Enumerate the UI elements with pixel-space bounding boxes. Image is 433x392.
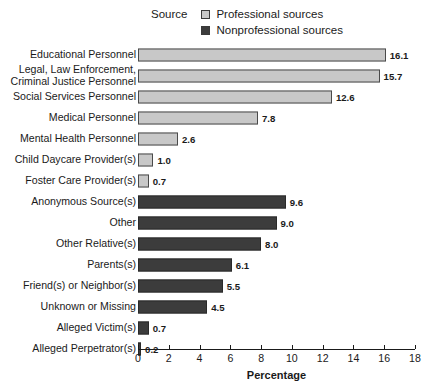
bar-row: Child Daycare Provider(s)1.0 [0,149,433,170]
bar-professional [138,90,332,103]
x-axis-tick-label: 8 [258,352,264,364]
bar-professional [138,153,153,166]
bar-wrapper: 9.6 [138,195,303,208]
bar-category-label: Medical Personnel [4,112,136,124]
x-axis-tick-label: 14 [348,352,360,364]
bar-category-label: Friend(s) or Neighbor(s) [4,280,136,292]
legend-label-nonprofessional: Nonprofessional sources [216,23,343,37]
x-axis-tick [384,345,385,349]
x-axis-tick-label: 12 [317,352,329,364]
bar-nonprofessional [138,237,261,250]
legend-entry-professional: Professional sources [201,7,343,21]
bar-category-label: Alleged Victim(s) [4,322,136,334]
bar-value-label: 1.0 [157,154,170,165]
bar-nonprofessional [138,258,232,271]
bar-nonprofessional [138,300,207,313]
bar-wrapper: 4.5 [138,300,225,313]
x-axis-tick [353,345,354,349]
plot-area: Educational Personnel16.1Legal, Law Enfo… [0,44,433,359]
x-axis-tick-label: 6 [227,352,233,364]
bar-value-label: 16.1 [390,49,409,60]
bar-category-label: Legal, Law Enforcement, Criminal Justice… [4,64,136,86]
bar-value-label: 6.1 [236,259,249,270]
bar-wrapper: 9.0 [138,216,294,229]
bar-row: Other9.0 [0,212,433,233]
bar-value-label: 7.8 [262,112,275,123]
legend-entry-nonprofessional: Nonprofessional sources [201,23,343,37]
bar-category-label: Educational Personnel [4,49,136,61]
bar-row: Educational Personnel16.1 [0,44,433,65]
bar-category-label: Alleged Perpetrator(s) [4,343,136,355]
bar-value-label: 9.0 [281,217,294,228]
bar-wrapper: 8.0 [138,237,278,250]
bar-category-label: Unknown or Missing [4,301,136,313]
bar-nonprofessional [138,195,286,208]
bar-category-label: Mental Health Personnel [4,133,136,145]
x-axis-line [138,349,415,350]
bar-wrapper: 0.7 [138,174,166,187]
bar-row: Foster Care Provider(s)0.7 [0,170,433,191]
bar-row: Unknown or Missing4.5 [0,296,433,317]
bar-value-label: 4.5 [211,301,224,312]
bar-value-label: 0.7 [153,322,166,333]
bar-wrapper: 1.0 [138,153,171,166]
bar-wrapper: 16.1 [138,48,408,61]
x-axis-tick [261,345,262,349]
x-axis-tick-label: 16 [378,352,390,364]
bar-row: Friend(s) or Neighbor(s)5.5 [0,275,433,296]
bar-professional [138,48,386,61]
bar-value-label: 0.7 [153,175,166,186]
x-axis-tick [230,345,231,349]
x-axis-tick-label: 4 [197,352,203,364]
bar-value-label: 12.6 [336,91,355,102]
bar-wrapper: 0.7 [138,321,166,334]
bar-category-label: Social Services Personnel [4,91,136,103]
x-axis-tick-label: 0 [135,352,141,364]
legend-label-professional: Professional sources [216,7,323,21]
bar-wrapper: 2.6 [138,132,195,145]
x-axis-tick-label: 2 [166,352,172,364]
bar-professional [138,174,149,187]
bar-row: Other Relative(s)8.0 [0,233,433,254]
bar-value-label: 15.7 [384,70,403,81]
bar-nonprofessional [138,321,149,334]
bar-category-label: Foster Care Provider(s) [4,175,136,187]
bar-row: Social Services Personnel12.6 [0,86,433,107]
x-axis-tick [200,345,201,349]
x-axis-tick [169,345,170,349]
bar-chart: Source Professional sources Nonprofessio… [0,0,433,392]
legend-swatch-nonprofessional-icon [201,26,210,35]
bar-category-label: Anonymous Source(s) [4,196,136,208]
bar-category-label: Other [4,217,136,229]
bar-professional [138,69,380,82]
x-axis-title: Percentage [138,369,415,381]
legend-swatch-professional-icon [201,10,210,19]
legend-title: Source [151,7,187,22]
bar-wrapper: 5.5 [138,279,240,292]
bar-nonprofessional [138,216,277,229]
bar-value-label: 2.6 [182,133,195,144]
x-axis-tick-label: 10 [286,352,298,364]
bar-wrapper: 12.6 [138,90,355,103]
bar-value-label: 5.5 [227,280,240,291]
bar-row: Legal, Law Enforcement, Criminal Justice… [0,65,433,86]
x-axis-tick [292,345,293,349]
bar-category-label: Other Relative(s) [4,238,136,250]
x-axis-tick [138,345,139,349]
x-axis-tick [415,345,416,349]
bar-wrapper: 7.8 [138,111,275,124]
bar-row: Medical Personnel7.8 [0,107,433,128]
bar-professional [138,111,258,124]
x-axis-tick [323,345,324,349]
legend-entries: Professional sources Nonprofessional sou… [201,7,343,37]
legend: Source Professional sources Nonprofessio… [151,7,343,37]
bar-row: Alleged Victim(s)0.7 [0,317,433,338]
bar-nonprofessional [138,279,223,292]
bar-category-label: Child Daycare Provider(s) [4,154,136,166]
bar-row: Anonymous Source(s)9.6 [0,191,433,212]
bar-value-label: 9.6 [290,196,303,207]
bar-wrapper: 15.7 [138,69,402,82]
bar-category-label: Parents(s) [4,259,136,271]
bar-professional [138,132,178,145]
bar-row: Parents(s)6.1 [0,254,433,275]
